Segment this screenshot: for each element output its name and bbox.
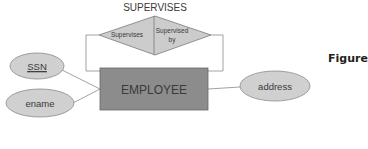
role-supervised-line2: by (169, 36, 177, 44)
relationship-title: SUPERVISES (123, 2, 187, 13)
attribute-ssn-label: SSN (27, 61, 47, 72)
ename-connector (73, 89, 100, 103)
entity-label: EMPLOYEE (121, 83, 187, 97)
left-role-connector (86, 35, 100, 71)
attribute-ename-label: ename (25, 98, 54, 109)
attribute-address-label: address (258, 81, 292, 92)
address-connector (208, 87, 240, 89)
role-supervised-line1: Supervised (156, 27, 189, 35)
role-supervises: Supervises (111, 31, 144, 39)
right-role-connector (208, 35, 223, 71)
figure-caption: Figure (328, 52, 368, 65)
ssn-connector (62, 70, 100, 89)
